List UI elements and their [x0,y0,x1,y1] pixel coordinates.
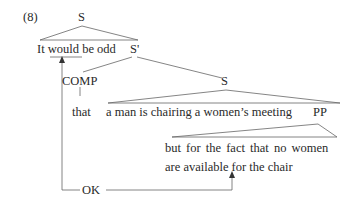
root-triangle [40,26,138,40]
pp-text-line2: are available for the chair [165,160,293,174]
pp-text-line1: but for the fact that no women [165,141,328,155]
ok-arrow-label: OK [82,183,100,197]
node-root-s: S [78,10,85,24]
matrix-clause-text: It would be odd [37,42,116,56]
complementizer-text: that [72,105,91,119]
tree-lines [0,0,353,206]
node-embedded-s: S [221,74,228,88]
node-s-bar: S' [130,42,139,56]
node-comp: COMP [62,74,97,88]
embedded-clause-text: a man is chairing a women’s meeting [106,105,292,119]
embedded-s-triangle [108,90,340,103]
sbar-to-comp-branch [83,57,132,72]
sbar-to-s-branch [137,57,222,78]
example-number: (8) [23,10,38,24]
pp-triangle [172,124,337,137]
node-pp: PP [313,105,327,119]
